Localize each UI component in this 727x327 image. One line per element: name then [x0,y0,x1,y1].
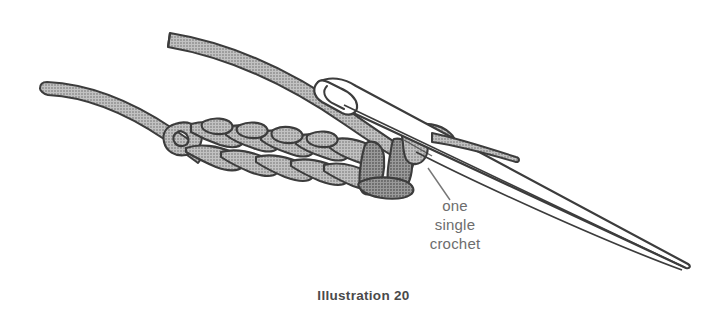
annotation-line-1: one [416,196,494,215]
annotation-line-2: single [416,215,494,234]
annotation-line-3: crochet [416,234,494,253]
annotation-one-single-crochet: one single crochet [416,196,494,253]
crochet-illustration-drawing [0,0,727,327]
illustration-figure: one single crochet Illustration 20 [0,0,727,327]
figure-caption: Illustration 20 [0,288,727,303]
